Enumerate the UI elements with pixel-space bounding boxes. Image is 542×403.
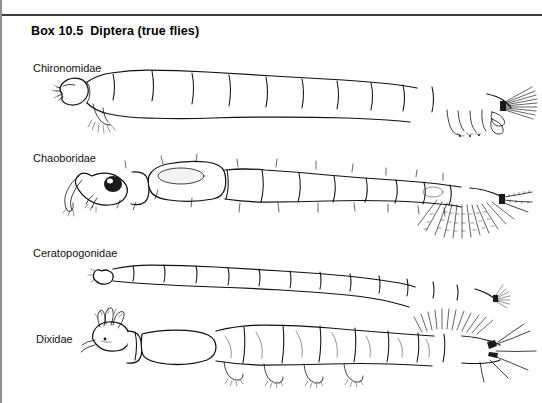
- figure-box-page: Box 10.5Diptera (true flies) Chironomida…: [0, 0, 542, 403]
- anal-setal-fan: [505, 87, 537, 119]
- specimen-ceratopogonidae: [88, 265, 510, 308]
- caudal-fan: [418, 200, 514, 238]
- anal-tubules: [491, 112, 505, 134]
- specimen-chaoboridae: [63, 154, 532, 238]
- specimen-chironomidae: [52, 70, 537, 137]
- caudal-filaments: [504, 190, 532, 212]
- dorsal-setal-brush: [414, 309, 493, 334]
- caudal-filaments: [480, 324, 536, 382]
- ventral-prolegs: [224, 362, 363, 388]
- specimen-dixidae: [81, 308, 536, 388]
- posterior-proleg-claws: [457, 133, 481, 137]
- diptera-larvae-illustration: [0, 0, 542, 403]
